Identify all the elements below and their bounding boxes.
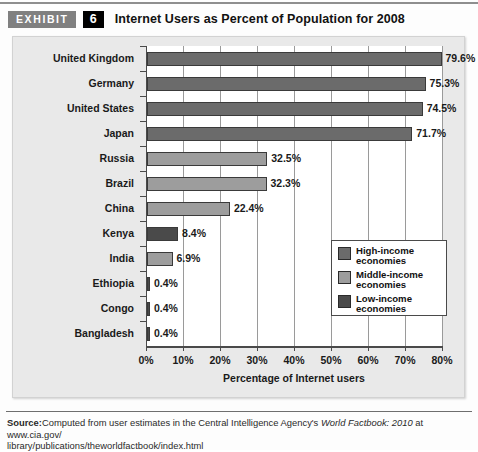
category-label-japan: Japan (8, 127, 134, 139)
category-label-ethiopia: Ethiopia (8, 277, 134, 289)
source-note: Source:Computed from user estimates in t… (7, 417, 477, 452)
legend-label-line2: economies (356, 303, 406, 314)
category-label-germany: Germany (8, 77, 134, 89)
bar-value-label: 8.4% (182, 227, 206, 239)
x-tick (331, 346, 332, 351)
category-tick (140, 121, 146, 122)
gridline (183, 46, 184, 346)
gridline (294, 46, 295, 346)
bar-value-label: 0.4% (154, 277, 178, 289)
x-tick (146, 346, 147, 351)
legend-label-line1: Low-income (356, 293, 412, 304)
bar-brazil (147, 177, 267, 191)
category-label-brazil: Brazil (8, 177, 134, 189)
category-tick (140, 146, 146, 147)
bar-congo (147, 302, 150, 316)
legend-swatch-middle-income (338, 271, 351, 284)
category-label-congo: Congo (8, 302, 134, 314)
gridline (220, 46, 221, 346)
category-tick (140, 296, 146, 297)
legend-swatch-high-income (338, 247, 351, 260)
bar-value-label: 32.3% (271, 177, 301, 189)
exhibit-header: EXHIBIT 6 Internet Users as Percent of P… (8, 8, 470, 30)
category-tick (140, 196, 146, 197)
bar-value-label: 75.3% (430, 77, 460, 89)
category-label-bangladesh: Bangladesh (8, 327, 134, 339)
legend-label-line1: Middle-income (356, 269, 423, 280)
bar-kenya (147, 227, 178, 241)
category-tick (140, 71, 146, 72)
top-divider (0, 2, 478, 4)
bar-value-label: 22.4% (234, 202, 264, 214)
category-tick (140, 171, 146, 172)
category-label-united-states: United States (8, 102, 134, 114)
legend-label-middle-income: Middle-income economies (356, 270, 423, 291)
bar-value-label: 6.9% (177, 252, 201, 264)
bar-value-label: 71.7% (416, 127, 446, 139)
category-label-united-kingdom: United Kingdom (8, 52, 134, 64)
bar-value-label: 0.4% (154, 302, 178, 314)
page-title: Internet Users as Percent of Population … (115, 12, 405, 26)
x-axis-title: Percentage of Internet users (146, 372, 442, 384)
legend-swatch-low-income (338, 295, 351, 308)
category-tick (140, 221, 146, 222)
category-tick (140, 46, 146, 47)
x-tick (183, 346, 184, 351)
legend-label-line1: High-income (356, 245, 414, 256)
bar-value-label: 32.5% (271, 152, 301, 164)
bar-germany (147, 77, 426, 91)
x-tick (294, 346, 295, 351)
category-tick (140, 321, 146, 322)
x-tick (220, 346, 221, 351)
bar-japan (147, 127, 412, 141)
bar-china (147, 202, 230, 216)
category-label-russia: Russia (8, 152, 134, 164)
x-tick-label: 80% (420, 354, 464, 366)
category-tick (140, 96, 146, 97)
bar-russia (147, 152, 267, 166)
source-divider (6, 411, 472, 412)
source-url-line2: library/publications/theworldfactbook/in… (7, 440, 203, 451)
category-label-kenya: Kenya (8, 227, 134, 239)
legend-item: Middle-income economies (338, 270, 442, 291)
legend-label-low-income: Low-income economies (356, 294, 412, 315)
bar-united-kingdom (147, 52, 442, 66)
source-text-a: Computed from user estimates in the Cent… (42, 417, 321, 428)
bar-bangladesh (147, 327, 150, 341)
x-tick (405, 346, 406, 351)
category-tick (140, 246, 146, 247)
gridline (257, 46, 258, 346)
chart-legend: High-income economies Middle-income econ… (331, 240, 447, 316)
source-label: Source: (7, 417, 42, 428)
exhibit-number-badge: 6 (83, 11, 104, 28)
x-tick (368, 346, 369, 351)
category-tick (140, 271, 146, 272)
bar-value-label: 74.5% (427, 102, 457, 114)
category-label-china: China (8, 202, 134, 214)
bar-value-label: 0.4% (154, 327, 178, 339)
exhibit-label: EXHIBIT (8, 11, 76, 28)
bar-ethiopia (147, 277, 150, 291)
x-tick (442, 346, 443, 351)
legend-label-line2: economies (356, 255, 406, 266)
bar-india (147, 252, 173, 266)
legend-label-high-income: High-income economies (356, 246, 414, 267)
legend-item: High-income economies (338, 246, 442, 267)
bar-united-states (147, 102, 423, 116)
category-label-india: India (8, 252, 134, 264)
x-tick (257, 346, 258, 351)
bar-value-label: 79.6% (446, 52, 476, 64)
source-publication: World Factbook: 2010 (321, 417, 413, 428)
legend-item: Low-income economies (338, 294, 442, 315)
legend-label-line2: economies (356, 279, 406, 290)
